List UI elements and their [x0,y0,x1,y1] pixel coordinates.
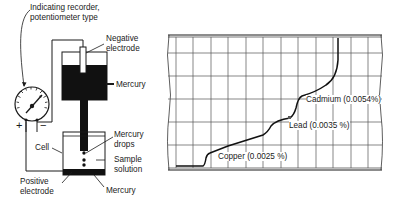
recorder-label-line2: potentiometer type [30,13,98,22]
minus-terminal-label: − [40,121,46,130]
recorder-label-line1: Indicating recorder, [30,3,100,12]
plus-terminal-label: + [16,121,22,130]
sample-solution-label-line1: Sample [114,155,142,164]
negative-electrode-label-line2: electrode [106,44,140,53]
copper-wave-label: Copper (0.0025 %) [218,152,287,161]
cell-label: Cell [35,143,49,152]
lead-wave-label: Lead (0.0035 %) [289,121,350,130]
mercury-drops-label-line2: drops [114,140,134,149]
mercury-reservoir [62,47,107,151]
mercury-drops-label-line1: Mercury [114,130,144,139]
positive-electrode-label-line2: electrode [20,187,54,196]
recorder-leader-line [21,10,30,86]
mercury-pool-label: Mercury [106,186,136,195]
positive-electrode-label-line1: Positive [20,177,49,186]
recorder-gauge-icon [15,87,49,121]
sample-solution-label-line2: solution [114,165,142,174]
mercury-reservoir-label: Mercury [116,80,146,89]
cadmium-wave-label: Cadmium (0.0054%) [306,95,381,104]
negative-electrode-label-line1: Negative [106,34,138,43]
